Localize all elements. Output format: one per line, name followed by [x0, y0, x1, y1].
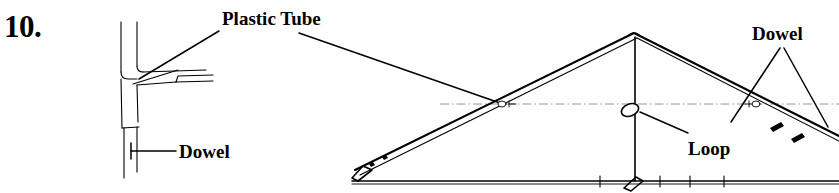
item-number: 10. — [4, 9, 41, 44]
spar-tube-joint-tick — [509, 101, 516, 107]
tube-shoulder-curve — [121, 72, 137, 79]
right-spar-joint-marker — [752, 101, 760, 107]
dowel-label-right: Dowel — [752, 23, 803, 44]
kite-frame-elevation-view: Loop Dowel — [352, 23, 839, 191]
tube-branch-lower-wall-inner — [137, 82, 176, 85]
dowel-mark-right-upper — [770, 122, 784, 132]
kite-construction-figure: 10. Dow — [0, 0, 839, 193]
loop-leader-line — [640, 112, 688, 133]
spar-tube-joint-marker — [498, 101, 506, 107]
right-spar-lower-edge — [637, 38, 839, 141]
plastic-tube-detail-view: Dowel — [121, 22, 230, 178]
plastic-tube-label: Plastic Tube — [222, 8, 321, 29]
tube-body-right-wall — [137, 85, 138, 122]
plastic-tube-leader-to-detail — [139, 31, 219, 79]
plastic-tube-leader-to-frame — [299, 33, 500, 103]
left-spar-upper-edge — [355, 33, 634, 170]
tube-inner-shoulder — [137, 66, 143, 72]
dowel-mark-right-lower — [791, 133, 805, 143]
plastic-tube-callout: Plastic Tube — [139, 8, 500, 103]
left-spar-lower-edge — [360, 38, 637, 175]
dowel-label-left: Dowel — [179, 141, 230, 162]
loop-label: Loop — [688, 138, 730, 159]
right-spar-joint-tick — [745, 101, 752, 107]
tube-branch-bottom-edge — [176, 81, 213, 82]
tube-body-left-wall — [121, 79, 122, 128]
figure-canvas: 10. Dow — [0, 0, 839, 193]
right-spar-upper-edge — [634, 33, 839, 136]
dowel-right-leader-b — [784, 48, 828, 127]
